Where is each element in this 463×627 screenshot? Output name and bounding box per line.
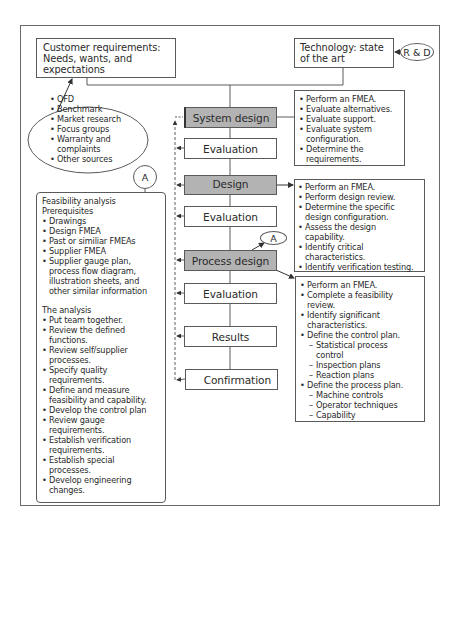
sources-ellipse: QFD Benchmark Market research Focus grou… bbox=[50, 94, 150, 164]
source-item: QFD bbox=[50, 94, 150, 104]
design-tasks-box: Perform an FMEA. Perform design review. … bbox=[294, 179, 425, 272]
node-label: Design bbox=[213, 178, 249, 190]
connector-a-right: A bbox=[260, 231, 287, 245]
source-item: Other sources bbox=[50, 154, 150, 164]
analysis-item: Establish verification requirements. bbox=[42, 435, 149, 455]
node-results: Results bbox=[184, 326, 277, 347]
feasibility-analysis-box: Feasibility analysis Prerequisites Drawi… bbox=[36, 192, 166, 503]
process-design-tasks-box: Perform an FMEA. Complete a feasibility … bbox=[295, 276, 425, 422]
node-label: Results bbox=[212, 331, 250, 343]
task-item: Determine the specific design configurat… bbox=[298, 202, 410, 222]
task-item: Perform an FMEA. bbox=[299, 94, 400, 104]
rd-node: R & D bbox=[400, 43, 434, 61]
node-label: Confirmation bbox=[204, 374, 271, 386]
analysis-item: Review gauge requirements. bbox=[42, 415, 129, 435]
task-item: Assess the design capability. bbox=[298, 222, 390, 242]
prerequisites-title: Prerequisites bbox=[42, 206, 160, 216]
analysis-item: Define and measure feasibility and capab… bbox=[42, 385, 160, 405]
customer-requirements-label: Customer requirements: Needs, wants, and… bbox=[43, 42, 160, 75]
prereq-item: Supplier FMEA bbox=[42, 246, 160, 256]
node-label: Evaluation bbox=[203, 288, 258, 300]
task-item: Identify significant characteristics. bbox=[300, 310, 397, 330]
analysis-item: Establish special processes. bbox=[42, 455, 129, 475]
prerequisites-list: Drawings Design FMEA Past or similiar FM… bbox=[42, 216, 160, 296]
analysis-item: Review self/supplier processes. bbox=[42, 345, 144, 365]
technology-box: Technology: state of the art bbox=[294, 38, 394, 68]
task-item: Evaluate alternatives. bbox=[299, 104, 400, 114]
sources-list: QFD Benchmark Market research Focus grou… bbox=[50, 94, 150, 164]
node-evaluation-3: Evaluation bbox=[184, 283, 277, 304]
node-label: Process design bbox=[192, 255, 269, 267]
system-design-tasks: Perform an FMEA. Evaluate alternatives. … bbox=[299, 94, 400, 164]
analysis-title: The analysis bbox=[42, 305, 160, 315]
node-evaluation-1: Evaluation bbox=[184, 138, 277, 159]
system-design-tasks-box: Perform an FMEA. Evaluate alternatives. … bbox=[294, 90, 405, 166]
prereq-item: Past or similiar FMEAs bbox=[42, 236, 160, 246]
task-item: Identify critical characteristics. bbox=[298, 242, 380, 262]
feasibility-title: Feasibility analysis bbox=[42, 196, 160, 206]
source-item: Market research bbox=[50, 114, 150, 124]
task-item: Define the control plan. bbox=[300, 330, 420, 340]
source-item: Focus groups bbox=[50, 124, 150, 134]
prereq-item: Design FMEA bbox=[42, 226, 160, 236]
node-evaluation-2: Evaluation bbox=[184, 206, 277, 227]
task-item: Determine the requirements. bbox=[299, 144, 376, 164]
node-label: Evaluation bbox=[203, 211, 258, 223]
technology-label: Technology: state of the art bbox=[300, 42, 384, 64]
task-item: Evaluate support. bbox=[299, 114, 400, 124]
sub-item: Operator techniques bbox=[300, 400, 420, 410]
sub-item: Statistical process control bbox=[300, 340, 406, 360]
analysis-item: Review the defined functions. bbox=[42, 325, 139, 345]
task-item: Perform an FMEA. bbox=[298, 182, 421, 192]
process-design-tasks: Perform an FMEA. Complete a feasibility … bbox=[300, 280, 420, 420]
task-item: Perform design review. bbox=[298, 192, 421, 202]
analysis-item: Specify quality requirements. bbox=[42, 365, 124, 385]
prereq-item: Drawings bbox=[42, 216, 160, 226]
customer-requirements-box: Customer requirements: Needs, wants, and… bbox=[36, 38, 176, 78]
sub-item: Reaction plans bbox=[300, 370, 420, 380]
sub-item: Capability bbox=[300, 410, 420, 420]
task-item: Define the process plan. bbox=[300, 380, 420, 390]
connector-a-left: A bbox=[133, 165, 157, 189]
task-item: Complete a feasibility review. bbox=[300, 290, 412, 310]
source-item: Benchmark bbox=[50, 104, 150, 114]
node-label: Evaluation bbox=[203, 143, 258, 155]
node-confirmation: Confirmation bbox=[185, 369, 278, 390]
source-item: Warranty and complaints bbox=[50, 134, 127, 154]
node-design: Design bbox=[184, 175, 277, 195]
analysis-item: Develop the control plan bbox=[42, 405, 160, 415]
sub-item: Machine controls bbox=[300, 390, 420, 400]
analysis-list: Put team together. Review the defined fu… bbox=[42, 315, 160, 495]
connector-a-label: A bbox=[270, 233, 277, 244]
task-item: Identify verification testing. bbox=[298, 262, 421, 272]
sub-item: Inspection plans bbox=[300, 360, 420, 370]
task-item: Perform an FMEA. bbox=[300, 280, 420, 290]
analysis-item: Put team together. bbox=[42, 315, 160, 325]
design-tasks: Perform an FMEA. Perform design review. … bbox=[298, 182, 421, 272]
spacer bbox=[42, 296, 160, 305]
rd-label: R & D bbox=[403, 47, 430, 58]
connector-a-label: A bbox=[142, 172, 149, 183]
node-label: System design bbox=[193, 112, 270, 124]
prereq-item: Supplier gauge plan, process flow diagra… bbox=[42, 256, 149, 296]
node-process-design: Process design bbox=[184, 250, 277, 271]
analysis-item: Develop engineering changes. bbox=[42, 475, 144, 495]
node-system-design: System design bbox=[184, 107, 277, 128]
task-item: Evaluate system configuration. bbox=[299, 124, 376, 144]
